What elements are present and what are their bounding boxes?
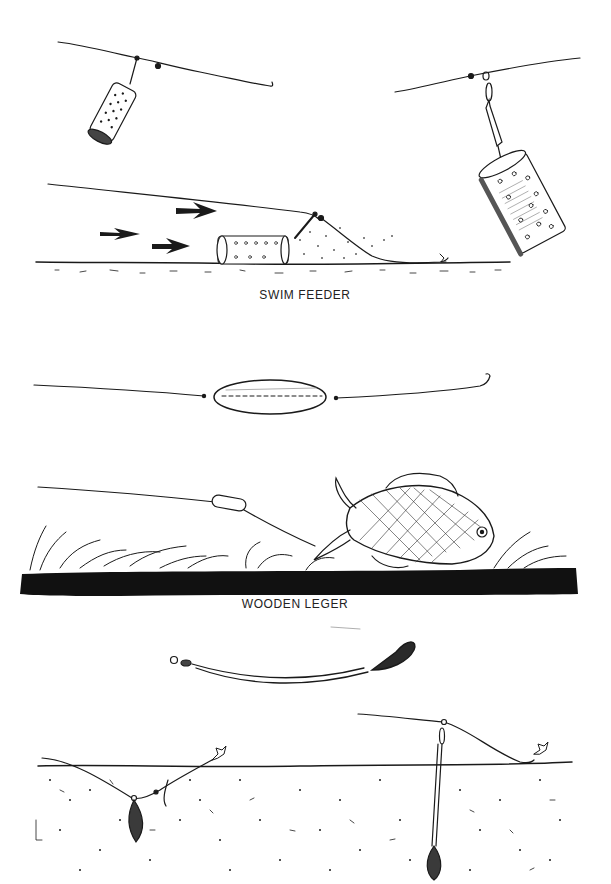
wooden-leger-with-fish	[20, 473, 578, 596]
feeder-top-right	[395, 58, 580, 254]
illustration-plate: SWIM FEEDER WOODEN LEGER	[0, 0, 611, 884]
feeder-top-left	[58, 42, 273, 147]
bomb-on-boom	[171, 627, 415, 683]
wooden-leger-on-line	[34, 374, 490, 414]
riverbed-dark	[20, 568, 578, 596]
fish-illustration	[314, 473, 494, 567]
tackle-illustration	[0, 0, 611, 884]
caption-wooden-leger: WOODEN LEGER	[200, 597, 390, 611]
caption-swim-feeder: SWIM FEEDER	[230, 288, 380, 302]
bomb-in-silt	[36, 714, 572, 880]
feeder-on-riverbed	[36, 184, 510, 273]
